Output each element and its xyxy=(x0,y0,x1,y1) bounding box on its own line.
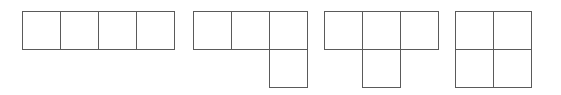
grid-cell xyxy=(269,49,308,88)
grid-cell xyxy=(269,11,308,50)
grid-cell xyxy=(22,11,61,50)
grid-cell xyxy=(231,11,270,50)
grid-cell xyxy=(324,11,363,50)
grid-cell xyxy=(136,11,175,50)
grid-cell xyxy=(193,11,232,50)
grid-cell xyxy=(362,49,401,88)
grid-cell xyxy=(493,11,532,50)
grid-cell xyxy=(362,11,401,50)
grid-cell xyxy=(60,11,99,50)
tetromino-diagram xyxy=(0,0,561,95)
grid-cell xyxy=(400,11,439,50)
grid-cell xyxy=(455,49,494,88)
grid-cell xyxy=(455,11,494,50)
grid-cell xyxy=(493,49,532,88)
grid-cell xyxy=(98,11,137,50)
